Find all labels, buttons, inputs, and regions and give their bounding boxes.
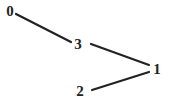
- edge-3-1: [91, 44, 149, 65]
- edge-2-1: [92, 72, 149, 90]
- node-label-3: 3: [74, 36, 82, 52]
- node-label-2: 2: [76, 83, 84, 99]
- edge-0-3: [16, 14, 71, 42]
- edges: [16, 14, 149, 90]
- nodes: 0312: [6, 3, 161, 99]
- node-label-1: 1: [153, 61, 161, 77]
- graph-diagram: 0312: [0, 0, 170, 105]
- node-label-0: 0: [6, 3, 14, 19]
